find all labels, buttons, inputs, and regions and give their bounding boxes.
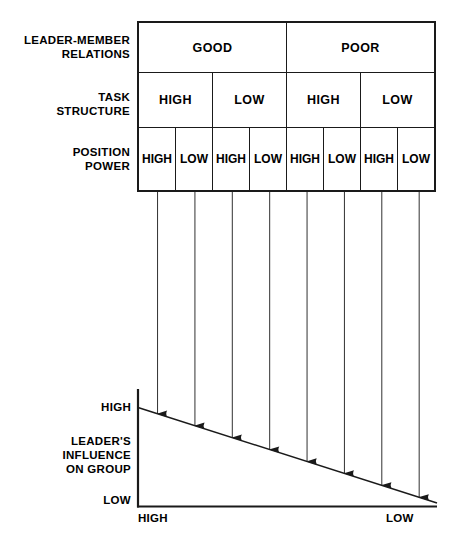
y-axis-label-high: HIGH bbox=[101, 400, 131, 414]
y-axis-label-low: LOW bbox=[103, 493, 131, 507]
fiedler-contingency-figure: LEADER-MEMBER RELATIONS TASK STRUCTURE P… bbox=[0, 0, 451, 553]
cell-relations-poor: POOR bbox=[286, 23, 434, 72]
table-row-position-power: HIGH LOW HIGH LOW HIGH LOW HIGH LOW bbox=[139, 127, 434, 190]
cell-power-2: LOW bbox=[175, 128, 212, 190]
cell-power-8: LOW bbox=[397, 128, 434, 190]
row-label-task-structure: TASK STRUCTURE bbox=[0, 90, 130, 118]
row-label-leader-member-relations: LEADER-MEMBER RELATIONS bbox=[0, 33, 130, 61]
cell-power-7: HIGH bbox=[360, 128, 397, 190]
cell-power-6: LOW bbox=[323, 128, 360, 190]
cell-relations-good: GOOD bbox=[139, 23, 286, 72]
y-axis-title: LEADER'S INFLUENCE ON GROUP bbox=[62, 434, 131, 476]
cell-power-5: HIGH bbox=[286, 128, 323, 190]
table-row-task-structure: HIGH LOW HIGH LOW bbox=[139, 72, 434, 127]
contingency-table: GOOD POOR HIGH LOW HIGH LOW HIGH LOW HIG… bbox=[137, 21, 436, 192]
row-label-position-power: POSITION POWER bbox=[0, 145, 130, 173]
cell-power-1: HIGH bbox=[139, 128, 175, 190]
x-axis-label-low: LOW bbox=[386, 511, 414, 525]
cell-task-good-high: HIGH bbox=[139, 73, 212, 127]
influence-line bbox=[138, 408, 437, 504]
cell-task-poor-low: LOW bbox=[360, 73, 434, 127]
x-axis-label-high: HIGH bbox=[138, 511, 168, 525]
cell-task-poor-high: HIGH bbox=[286, 73, 360, 127]
cell-power-4: LOW bbox=[249, 128, 286, 190]
cell-power-3: HIGH bbox=[212, 128, 249, 190]
cell-task-good-low: LOW bbox=[212, 73, 286, 127]
table-row-leader-member-relations: GOOD POOR bbox=[139, 23, 434, 72]
